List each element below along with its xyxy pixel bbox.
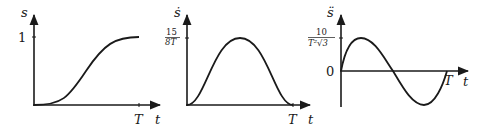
acceleration-t-tick-label: T xyxy=(444,73,454,88)
acceleration-zero-label: 0 xyxy=(326,64,334,79)
acceleration-y-tick-denominator: T²√3 xyxy=(308,38,328,48)
position-y-tick-label: 1 xyxy=(18,30,26,45)
velocity-plot: ṡ 15 8T T t xyxy=(165,5,314,127)
velocity-y-tick-denominator: 8T xyxy=(165,37,177,47)
velocity-x-label: t xyxy=(308,112,314,127)
velocity-y-tick-numerator: 15 xyxy=(166,27,177,37)
position-t-tick-label: T xyxy=(134,112,144,127)
position-plot: s 1 T t xyxy=(18,5,161,127)
position-curve xyxy=(34,37,139,105)
velocity-t-tick-label: T xyxy=(288,112,298,127)
velocity-curve xyxy=(187,38,293,105)
time-scaling-diagram: s 1 T t ṡ 15 8T T t s̈ 10 T²√3 0 T t xyxy=(0,0,488,130)
position-x-label: t xyxy=(155,112,161,127)
position-y-label: s xyxy=(21,5,28,20)
velocity-y-label: ṡ xyxy=(174,5,181,20)
acceleration-x-label: t xyxy=(463,74,469,89)
acceleration-plot: s̈ 10 T²√3 0 T t xyxy=(308,5,469,107)
acceleration-y-label: s̈ xyxy=(327,5,334,20)
acceleration-y-tick-numerator: 10 xyxy=(316,27,327,37)
